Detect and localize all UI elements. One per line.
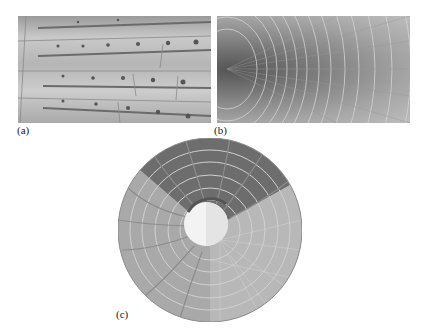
panel-label-c: (c): [116, 308, 128, 320]
photo-a-tunnel-lining-wall: [18, 16, 211, 123]
tunnel-cross-section-figure: [118, 138, 302, 322]
photo-b-tunnel-rings: [217, 16, 410, 123]
lining-segments-drawing: [18, 16, 211, 123]
tunnel-disc-drawing: [118, 138, 302, 322]
panel-label-b: (b): [214, 124, 227, 136]
panel-label-a: (a): [17, 124, 29, 136]
concentric-rings-drawing: [217, 16, 410, 123]
